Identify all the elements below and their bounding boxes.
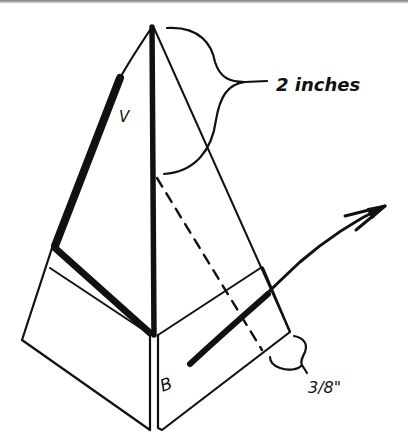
- label-v: V: [119, 108, 131, 126]
- folding-diagram: 2 inches 3/8" V B: [0, 0, 408, 436]
- label-2-inches: 2 inches: [276, 74, 360, 95]
- fold-arrow: [190, 206, 385, 364]
- label-b: B: [157, 373, 175, 396]
- brace-2-inches: [164, 28, 267, 174]
- diagram-canvas: 2 inches 3/8" V B: [0, 0, 408, 436]
- label-3-8: 3/8": [308, 378, 341, 397]
- center-spine: [152, 27, 154, 335]
- brace-3-8: [270, 336, 307, 373]
- left-edge: [55, 27, 152, 333]
